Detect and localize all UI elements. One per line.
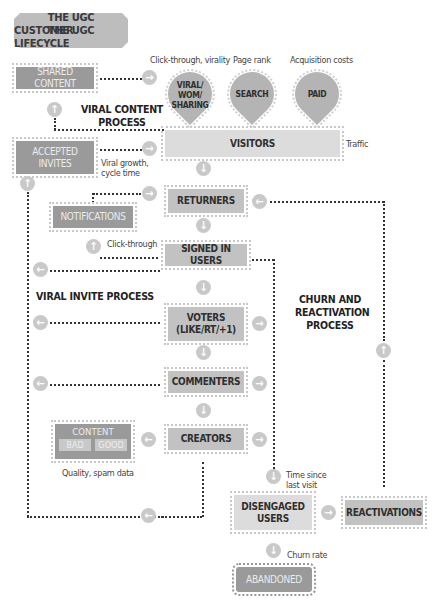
viral-content-process-label: VIRAL CONTENT PROCESS xyxy=(72,103,172,129)
arrow-left-icon: ← xyxy=(33,315,48,330)
creators-node: CREATORS xyxy=(168,428,244,450)
arrow-right-icon: → xyxy=(142,186,157,201)
arrow-right-icon: → xyxy=(252,432,267,447)
arrow-down-icon: ↓ xyxy=(266,469,281,484)
arrow-right-icon: → xyxy=(142,70,157,85)
connector xyxy=(158,516,202,518)
paid-metric-label: Acquisition costs xyxy=(290,55,353,65)
shared-content-node: SHARED CONTENT xyxy=(16,67,94,89)
connector xyxy=(50,322,160,324)
connector xyxy=(270,201,384,203)
arrow-left-icon: ← xyxy=(141,508,156,523)
signed-in-users-node: SIGNED IN USERS xyxy=(165,244,247,266)
connector xyxy=(100,149,142,151)
arrow-left-icon: ← xyxy=(252,194,267,209)
arrow-down-icon: ↓ xyxy=(196,218,211,233)
arrow-right-icon: → xyxy=(142,141,157,156)
arrow-down-icon: ↓ xyxy=(266,543,281,558)
notifications-node: NOTIFICATIONS xyxy=(53,206,133,228)
connector xyxy=(383,360,385,487)
arrow-down-icon: ↓ xyxy=(196,161,211,176)
arrow-left-icon: ← xyxy=(33,376,48,391)
content-node: CONTENT BAD GOOD xyxy=(55,424,131,459)
visitors-node: VISITORS xyxy=(165,130,340,157)
arrow-left-icon: ← xyxy=(141,432,156,447)
disengaged-users-node: DISENGAGED USERS xyxy=(234,495,312,530)
connector xyxy=(27,192,29,517)
reactivations-node: REACTIVATIONS xyxy=(345,500,423,525)
arrow-up-icon: ↑ xyxy=(86,239,101,254)
arrow-right-icon: → xyxy=(252,376,267,391)
title-line-1: THE UGC xyxy=(48,11,95,24)
arrow-down-icon: ↓ xyxy=(196,403,211,418)
viral-metric-label: Click-through, virality xyxy=(150,55,230,65)
search-pin-label: SEARCH xyxy=(230,89,274,99)
connector xyxy=(50,270,160,272)
time-since-label: Time since last visit xyxy=(286,470,332,490)
churn-reactivation-process-label: CHURN AND REACTIVATION PROCESS xyxy=(295,293,365,332)
arrow-left-icon: ← xyxy=(33,262,48,277)
abandoned-node: ABANDONED xyxy=(236,567,312,592)
arrow-up-icon: ↑ xyxy=(47,102,62,117)
connector xyxy=(54,129,164,131)
traffic-label: Traffic xyxy=(346,139,368,149)
connector xyxy=(100,78,142,80)
content-bad: BAD xyxy=(59,439,91,451)
connector xyxy=(100,257,158,259)
arrow-down-icon: ↓ xyxy=(196,345,211,360)
connector xyxy=(252,259,274,261)
connector xyxy=(273,259,275,469)
title-line-2: CUSTOMER LIFECYCLE xyxy=(14,24,128,50)
viral-pin-label: VIRAL/ WOM/ SHARING xyxy=(168,80,212,110)
arrow-right-icon: → xyxy=(252,316,267,331)
viral-growth-label: Viral growth, cycle time xyxy=(101,158,161,178)
paid-pin-label: PAID xyxy=(295,89,339,99)
click-through-label: Click-through xyxy=(107,239,157,249)
arrow-up-icon: ↑ xyxy=(20,176,35,191)
search-metric-label: Page rank xyxy=(233,55,271,65)
connector xyxy=(202,462,204,517)
arrow-up-icon: ↑ xyxy=(376,343,391,358)
arrow-down-icon: ↓ xyxy=(196,280,211,295)
accepted-invites-node: ACCEPTED INVITES xyxy=(16,141,94,174)
commenters-node: COMMENTERS xyxy=(168,371,244,393)
content-label: CONTENT xyxy=(55,426,131,437)
connector xyxy=(92,193,94,203)
quality-label: Quality, spam data xyxy=(62,468,134,478)
returners-node: RETURNERS xyxy=(168,189,244,213)
content-good: GOOD xyxy=(95,439,127,451)
arrow-right-icon: → xyxy=(321,505,336,520)
churn-rate-label: Churn rate xyxy=(287,550,327,560)
diagram-title-text: THE UGC CUSTOMER LIFECYCLE xyxy=(14,13,128,48)
viral-invite-process-label: VIRAL INVITE PROCESS xyxy=(36,290,156,303)
connector xyxy=(50,384,160,386)
connector xyxy=(93,193,141,195)
voters-node: VOTERS (LIKE/RT/+1) xyxy=(168,307,244,341)
connector xyxy=(383,201,385,341)
